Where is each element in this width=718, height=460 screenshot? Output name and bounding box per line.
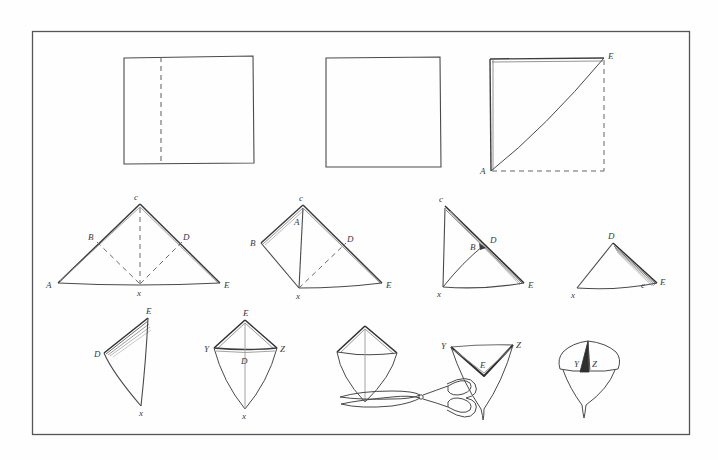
label-Z: Z (592, 359, 598, 369)
label-D: D (182, 232, 190, 242)
label-E: E (145, 306, 152, 316)
kite-edge-right-inner (365, 329, 394, 354)
label-D: D (346, 234, 354, 244)
edge-D-E (613, 243, 657, 283)
figure-1-rectangle-with-fold-line (124, 56, 254, 164)
figure-11-inverted-triangle-YEZ: Y Z E (441, 340, 522, 420)
edge-E-Y (214, 320, 245, 348)
kite-edge-left-inner (340, 329, 365, 353)
label-X: x (241, 411, 246, 421)
figure-12-finished-form-YZ: Y Z (559, 341, 620, 418)
bottom-tip (582, 405, 586, 418)
label-Y: Y (204, 344, 210, 354)
outer-right-side (484, 345, 513, 409)
figure-3-square-with-diagonal: E A (479, 51, 614, 176)
bottom-point (481, 409, 484, 420)
kite-fold-horizontal (337, 352, 397, 355)
label-B: B (470, 242, 476, 252)
scissors-pivot (419, 395, 423, 399)
edge-Y-Z-inner (216, 351, 275, 353)
label-E: E (659, 277, 666, 287)
scissors-arm-upper (423, 386, 448, 395)
label-C: c (134, 192, 138, 202)
label-X: x (570, 290, 575, 300)
right-wing-base (591, 369, 618, 371)
body-left (563, 370, 582, 405)
label-D: D (240, 356, 248, 366)
label-B: B (88, 232, 94, 242)
edge-E-D-inner-2 (108, 324, 149, 355)
label-B: B (250, 238, 256, 248)
crease-B-X (97, 242, 140, 284)
label-E: E (607, 51, 614, 61)
label-E: E (527, 280, 534, 290)
edge-E-Y-inner (217, 323, 245, 349)
label-X: x (136, 288, 141, 298)
edge-C-B-inner-2 (265, 210, 304, 245)
figure-8-narrow-triangle-DEX: E D x (93, 306, 152, 418)
label-E: E (479, 360, 486, 370)
edge-X-E (443, 283, 524, 288)
edge-A-C-inner (60, 207, 140, 281)
edge-B-X (261, 243, 299, 288)
label-A: A (479, 166, 486, 176)
plate-border (33, 32, 690, 435)
label-C: c (299, 193, 303, 203)
scissors-arm-lower (423, 399, 448, 407)
square-top-edge-inner (492, 61, 603, 62)
label-A: A (293, 217, 300, 227)
label-C: c (641, 280, 645, 290)
edge-C-X (299, 208, 303, 288)
figure-7-small-triangle-DXE: D x c E (570, 231, 666, 300)
kite-lower-right (365, 353, 397, 402)
edge-X-D (577, 243, 613, 288)
rectangle-outline (124, 56, 254, 164)
label-E: E (385, 280, 392, 290)
crease-X-D (299, 243, 346, 288)
edge-Z-X (245, 348, 277, 409)
label-Y: Y (574, 359, 580, 369)
edge-X-E (577, 283, 657, 289)
figure-plate: E A c B D A x E (0, 0, 718, 460)
crease-D-X (140, 242, 182, 284)
label-D: D (93, 349, 101, 359)
diagonal-A-to-E (491, 58, 604, 171)
label-Z: Z (516, 340, 522, 350)
label-X: x (138, 408, 143, 418)
edge-E-D-inner-3 (110, 327, 150, 356)
label-E: E (223, 280, 230, 290)
square-top-edge (490, 58, 604, 59)
edge-D-E-inner-4 (617, 252, 652, 286)
scissors-handle-lower (448, 398, 471, 412)
edge-Y-Z (214, 348, 277, 350)
label-D: D (607, 231, 615, 241)
edge-D-E-inner-1 (614, 246, 656, 284)
label-X: x (295, 291, 300, 301)
edge-E-D-inner-1 (106, 321, 148, 354)
outer-left-side (451, 347, 481, 409)
kite-edge-left (337, 326, 365, 352)
label-A: A (45, 280, 52, 290)
edge-D-X (104, 353, 141, 406)
label-E: E (242, 308, 249, 318)
label-X: x (436, 289, 441, 299)
label-Z: Z (280, 344, 286, 354)
square-outline (326, 57, 441, 167)
edge-Y-Z (451, 345, 513, 347)
label-Y: Y (441, 341, 447, 351)
label-C: c (439, 194, 443, 204)
edge-D-E-inner-2 (615, 248, 655, 285)
figure-6-triangle-CXE: c B D x E (436, 194, 534, 299)
label-D: D (489, 235, 497, 245)
kite-edge-right (365, 326, 397, 353)
body-right (586, 370, 615, 405)
figure-4-triangle-ACE: c B D A x E (45, 192, 230, 298)
square-left-edge (490, 59, 491, 171)
figure-5-kite-BCDEX: c A B D x E (250, 193, 392, 301)
figure-2-folded-square (326, 57, 441, 167)
figure-canvas: E A c B D A x E (0, 0, 718, 460)
figure-10-kite-with-scissors (337, 326, 476, 417)
scissors-handle-upper (448, 381, 471, 395)
edge-X-E (299, 283, 382, 288)
edge-X-B (443, 246, 483, 287)
